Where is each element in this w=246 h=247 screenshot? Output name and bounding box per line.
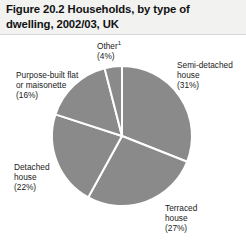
slice-label-purpose-built-flat-line2: or maisonette — [16, 80, 78, 90]
figure-container: Figure 20.2 Households, by type of dwell… — [0, 0, 246, 247]
footnote-marker: 1 — [118, 40, 121, 46]
slice-label-terraced-house: Terraced house (27%) — [165, 203, 197, 234]
slice-label-semi-detached-house-line2: house — [177, 70, 233, 80]
slice-label-detached-house-percent: (22%) — [14, 182, 50, 192]
slice-label-purpose-built-flat-percent: (16%) — [16, 90, 78, 100]
slice-label-other: Other1 (4%) — [97, 41, 121, 61]
slice-label-terraced-house-percent: (27%) — [165, 223, 197, 233]
slice-label-purpose-built-flat: Purpose-built flat or maisonette (16%) — [16, 70, 78, 101]
slice-label-semi-detached-house: Semi-detached house (31%) — [177, 60, 233, 91]
slice-label-other-percent: (4%) — [97, 51, 121, 61]
slice-label-semi-detached-house-percent: (31%) — [177, 80, 233, 90]
slice-label-other-name: Other1 — [97, 41, 121, 51]
slice-label-semi-detached-house-line1: Semi-detached — [177, 60, 233, 70]
slice-label-terraced-house-line1: Terraced — [165, 203, 197, 213]
page-title: Figure 20.2 Households, by type of dwell… — [6, 2, 240, 31]
slice-label-detached-house-line1: Detached — [14, 162, 50, 172]
slice-label-detached-house: Detached house (22%) — [14, 162, 50, 193]
slice-label-purpose-built-flat-line1: Purpose-built flat — [16, 70, 78, 80]
slice-label-terraced-house-line2: house — [165, 213, 197, 223]
slice-label-detached-house-line2: house — [14, 172, 50, 182]
